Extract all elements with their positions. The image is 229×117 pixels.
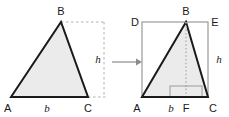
left-vertex-label-a: A [4,102,12,114]
left-vertex-label-c: C [84,102,92,114]
left-base-label-b: b [44,102,50,114]
left-triangle-group: A B C b h [4,5,106,114]
transformation-arrow-group [112,59,142,66]
right-vertex-label-a: A [133,102,141,114]
triangle-abc-shape [11,22,88,97]
right-vertex-label-b: B [182,5,189,17]
right-vertex-label-c: C [209,102,217,114]
geometry-canvas: A B C b h D B E [0,0,229,117]
left-height-label-h: h [95,53,101,65]
right-vertex-label-e: E [211,16,218,28]
right-vertex-label-d: D [131,16,139,28]
right-vertex-label-f: F [183,102,190,114]
transformation-arrow-head [136,59,142,66]
geometry-figure: A B C b h D B E [0,0,229,117]
right-triangle-in-rectangle-group: D B E A F C b h [131,5,222,114]
right-base-label-b: b [168,102,174,114]
right-height-label-h: h [216,53,222,65]
left-vertex-label-b: B [57,5,64,17]
